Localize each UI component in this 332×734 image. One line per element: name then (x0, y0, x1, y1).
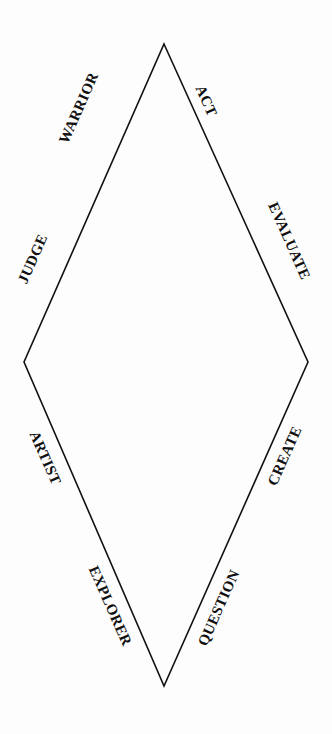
diamond-outline (0, 0, 332, 734)
diagram-page: WARRIOR ACT JUDGE EVALUATE ARTIST CREATE… (0, 0, 332, 734)
diamond-polygon (24, 44, 308, 686)
